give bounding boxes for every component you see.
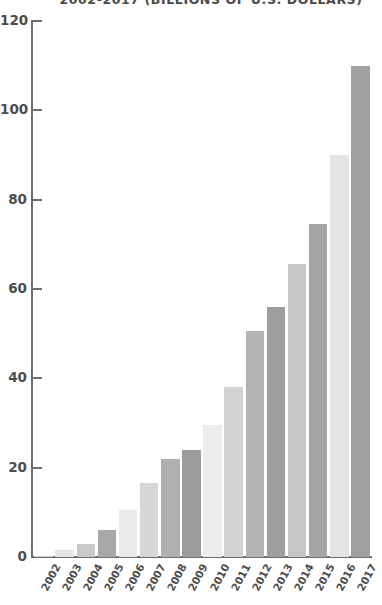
x-axis-tick-label: 2016 — [335, 562, 358, 593]
bar-2006 — [119, 510, 138, 557]
chart-title: 2002-2017 (BILLIONS OF U.S. DOLLARS) — [40, 0, 382, 7]
x-axis-tick-label: 2011 — [229, 562, 252, 593]
x-axis-tick-label: 2013 — [271, 562, 294, 593]
x-axis-tick-label: 2015 — [313, 562, 336, 593]
bar-2004 — [77, 544, 96, 557]
y-axis-tick-label: 80 — [0, 193, 27, 207]
x-axis-tick-label: 2007 — [144, 562, 167, 593]
x-axis-tick-label: 2012 — [250, 562, 273, 593]
bar-2015 — [309, 224, 328, 557]
x-axis-tick-label: 2004 — [81, 562, 104, 593]
bar-2010 — [203, 425, 222, 557]
bar-chart: 2002-2017 (BILLIONS OF U.S. DOLLARS) 020… — [0, 0, 382, 605]
bar-2008 — [161, 459, 180, 557]
x-axis-tick-label: 2008 — [166, 562, 189, 593]
x-axis-tick-label: 2006 — [123, 562, 146, 593]
y-axis-tick-label: 60 — [0, 282, 27, 296]
bar-2009 — [182, 450, 201, 557]
bar-series — [33, 21, 371, 557]
y-axis-tick-label: 100 — [0, 104, 27, 118]
x-axis-tick-label: 2010 — [208, 562, 231, 593]
bar-2013 — [267, 307, 286, 557]
bar-2005 — [98, 530, 117, 557]
bar-2017 — [351, 66, 370, 557]
x-axis-tick-label: 2003 — [60, 562, 83, 593]
bar-2014 — [288, 264, 307, 557]
x-axis-labels: 2002200320042005200620072008200920102011… — [33, 558, 371, 605]
y-axis-tick-label: 40 — [0, 372, 27, 386]
y-axis-tick-label: 20 — [0, 461, 27, 475]
y-axis-tick-label: 0 — [0, 550, 27, 564]
bar-2012 — [246, 331, 265, 557]
y-axis-tick-label: 120 — [0, 14, 27, 28]
x-axis-tick-label: 2014 — [292, 562, 315, 593]
bar-2007 — [140, 483, 159, 557]
x-axis-tick-label: 2005 — [102, 562, 125, 593]
bar-2002 — [34, 556, 53, 557]
bar-2003 — [55, 550, 74, 557]
x-axis-tick-label: 2009 — [187, 562, 210, 593]
x-axis-tick-label: 2002 — [39, 562, 62, 593]
x-axis-tick-label: 2017 — [356, 562, 379, 593]
bar-2016 — [330, 155, 349, 557]
bar-2011 — [224, 387, 243, 557]
